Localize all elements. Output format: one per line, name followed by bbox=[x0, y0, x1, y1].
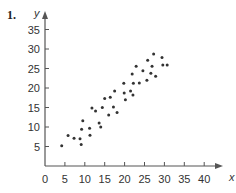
y-tick-label: 30 bbox=[28, 43, 40, 55]
x-axis-arrow-icon bbox=[215, 163, 223, 169]
x-tick-label: 0 bbox=[42, 173, 48, 185]
data-point bbox=[151, 65, 154, 68]
data-point bbox=[132, 82, 135, 85]
data-point bbox=[149, 72, 152, 75]
data-point bbox=[152, 53, 155, 56]
y-axis-arrow-icon bbox=[42, 11, 48, 19]
data-point bbox=[80, 143, 83, 146]
y-tick-label: 10 bbox=[28, 121, 40, 133]
data-point bbox=[109, 96, 112, 99]
data-point bbox=[88, 127, 91, 130]
data-point bbox=[94, 110, 97, 113]
data-point bbox=[122, 82, 125, 85]
data-point bbox=[129, 90, 132, 93]
y-tick-label: 15 bbox=[28, 102, 40, 114]
data-point bbox=[112, 106, 115, 109]
data-points bbox=[60, 53, 168, 148]
data-point bbox=[103, 97, 106, 100]
x-tick-label: 15 bbox=[99, 173, 111, 185]
y-tick-label: 35 bbox=[28, 24, 40, 36]
data-point bbox=[124, 98, 127, 101]
data-point bbox=[73, 137, 76, 140]
data-point bbox=[161, 63, 164, 66]
x-tick-label: 40 bbox=[198, 173, 210, 185]
scatter-plot: 1. 05101520253035405101520253035xy bbox=[0, 0, 236, 193]
data-point bbox=[166, 63, 169, 66]
y-tick-label: 5 bbox=[34, 141, 40, 153]
axes: 05101520253035405101520253035xy bbox=[28, 7, 235, 185]
y-axis-label: y bbox=[33, 7, 41, 19]
problem-number: 1. bbox=[7, 8, 16, 22]
data-point bbox=[154, 75, 157, 78]
data-point bbox=[98, 122, 101, 125]
x-tick-label: 35 bbox=[178, 173, 190, 185]
x-tick-label: 5 bbox=[62, 173, 68, 185]
data-point bbox=[123, 92, 126, 95]
data-point bbox=[131, 72, 134, 75]
data-point bbox=[60, 144, 63, 147]
data-point bbox=[99, 126, 102, 129]
data-point bbox=[141, 69, 144, 72]
data-point bbox=[67, 134, 70, 137]
data-point bbox=[81, 119, 84, 122]
data-point bbox=[146, 59, 149, 62]
x-tick-label: 25 bbox=[138, 173, 150, 185]
data-point bbox=[145, 79, 148, 82]
x-tick-label: 20 bbox=[118, 173, 130, 185]
x-tick-label: 10 bbox=[79, 173, 91, 185]
data-point bbox=[90, 106, 93, 109]
data-point bbox=[80, 128, 83, 131]
data-point bbox=[101, 106, 104, 109]
data-point bbox=[138, 81, 141, 84]
data-point bbox=[88, 134, 91, 137]
y-tick-label: 25 bbox=[28, 63, 40, 75]
data-point bbox=[135, 65, 138, 68]
data-point bbox=[161, 56, 164, 59]
x-axis-label: x bbox=[228, 171, 235, 183]
data-point bbox=[79, 137, 82, 140]
x-tick-label: 30 bbox=[158, 173, 170, 185]
data-point bbox=[107, 113, 110, 116]
data-point bbox=[131, 94, 134, 97]
data-point bbox=[113, 90, 116, 93]
data-point bbox=[116, 111, 119, 114]
y-tick-label: 20 bbox=[28, 82, 40, 94]
